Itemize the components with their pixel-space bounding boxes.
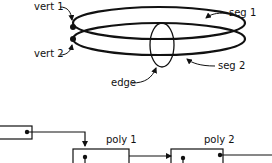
seg-2-leader — [187, 59, 215, 66]
seg-1-leader — [206, 13, 226, 18]
vert-2-label: vert 2 — [34, 48, 64, 59]
head-to-poly1-arrow — [27, 132, 85, 146]
edge-ellipse — [150, 23, 174, 67]
winged-edge-diagram: vert 1 vert 2 seg 1 seg 2 edge poly 1 po… — [0, 0, 272, 163]
poly-2-label: poly 2 — [204, 134, 235, 145]
vert-1-label: vert 1 — [34, 1, 64, 12]
poly-1-box — [73, 149, 129, 163]
poly-2-box — [171, 149, 223, 163]
poly-1-label: poly 1 — [106, 134, 137, 145]
vert-1-point — [70, 24, 76, 30]
seg-1-label: seg 1 — [229, 7, 256, 18]
seg-2-label: seg 2 — [218, 60, 245, 71]
vert-2-point — [70, 36, 76, 42]
